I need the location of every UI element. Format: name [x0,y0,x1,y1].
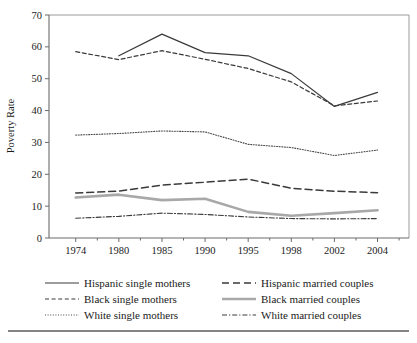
x-axis-ticks: 19741980198519901995199820022004 [65,238,399,256]
legend-label: Hispanic single mothers [84,277,190,289]
series-line-black-single-mothers [76,51,378,106]
y-tick-label: 40 [32,105,43,116]
x-tick-label: 1974 [65,245,87,256]
chart-canvas: 010203040506070 197419801985199019951998… [0,0,417,343]
x-tick-label: 1990 [195,245,216,256]
chart-legend: Hispanic single mothersHispanic married … [45,277,373,321]
x-tick-label: 2004 [367,245,389,256]
legend-label: Black single mothers [84,293,177,305]
legend-label: White married couples [261,309,361,321]
series-line-white-single-mothers [76,131,378,156]
y-tick-label: 10 [32,201,43,212]
y-tick-label: 30 [32,137,43,148]
y-tick-label: 70 [32,10,43,21]
legend-label: Hispanic married couples [261,277,373,289]
y-tick-label: 20 [32,169,43,180]
x-tick-label: 1980 [108,245,129,256]
x-tick-label: 1985 [151,245,172,256]
series-line-black-married-couples [76,195,378,216]
y-tick-label: 0 [37,233,42,244]
x-tick-label: 2002 [324,245,345,256]
x-tick-label: 1998 [281,245,302,256]
x-tick-label: 1995 [238,245,259,256]
legend-label: Black married couples [261,293,360,305]
y-axis-title: Poverty Rate [5,98,16,153]
legend-label: White single mothers [84,309,178,321]
plot-frame [49,15,409,238]
y-tick-label: 60 [32,41,43,52]
y-tick-label: 50 [32,73,43,84]
poverty-rate-chart-figure: 010203040506070 197419801985199019951998… [0,0,417,343]
series-line-hispanic-married-couples [76,179,378,193]
data-series-group [76,34,378,219]
series-line-hispanic-single-mothers [119,34,378,106]
y-axis-ticks: 010203040506070 [32,10,50,244]
